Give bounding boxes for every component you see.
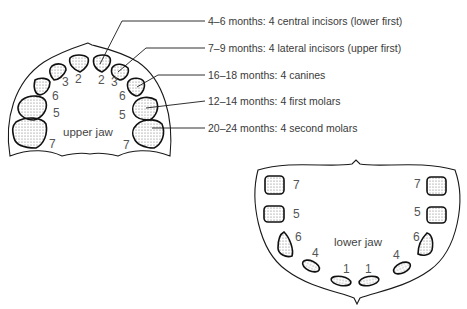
legend-first-molars: 12–14 months: 4 first molars [208, 95, 340, 107]
lower-left-6: 6 [295, 231, 302, 244]
upper-left-7: 7 [49, 138, 56, 151]
upper-right-2: 2 [98, 74, 105, 87]
upper-left-6: 6 [52, 90, 59, 103]
legend-second-molars: 20–24 months: 4 second molars [208, 122, 357, 134]
lower-left-4: 4 [312, 247, 319, 260]
lower-right-7: 7 [414, 178, 421, 191]
upper-left-3: 3 [62, 76, 69, 89]
upper-left-2: 2 [75, 73, 82, 86]
legend-central-incisors: 4–6 months: 4 central incisors (lower fi… [208, 15, 402, 27]
lower-jaw-label: lower jaw [334, 236, 382, 249]
lower-right-5: 5 [414, 206, 421, 219]
upper-left-5: 5 [53, 107, 60, 120]
upper-right-3: 3 [111, 76, 118, 89]
lower-right-6: 6 [413, 231, 420, 244]
upper-right-5: 5 [119, 109, 126, 122]
upper-jaw-label: upper jaw [63, 126, 113, 139]
lower-left-5: 5 [293, 208, 300, 221]
lower-right-1: 1 [365, 263, 372, 276]
upper-right-6: 6 [119, 90, 126, 103]
lower-left-1: 1 [343, 263, 350, 276]
lower-right-4: 4 [393, 249, 400, 262]
lower-left-7: 7 [293, 179, 300, 192]
upper-right-7: 7 [123, 139, 130, 152]
legend-lateral-incisors: 7–9 months: 4 lateral incisors (upper fi… [208, 42, 401, 54]
legend-canines: 16–18 months: 4 canines [208, 69, 325, 81]
